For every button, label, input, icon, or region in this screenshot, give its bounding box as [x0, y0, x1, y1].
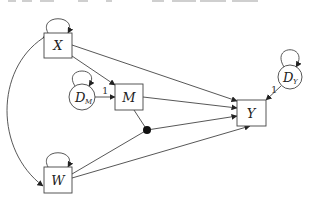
edge-x-m: [72, 56, 115, 85]
path-diagram: X M W Y D M D Y 1 1: [0, 0, 313, 205]
svg-text:M: M: [121, 90, 136, 105]
node-w: W: [44, 167, 72, 193]
edge-label-dm-m: 1: [102, 85, 108, 96]
self-loop-dy: [281, 50, 299, 67]
self-loop-w: [46, 153, 69, 167]
node-m: M: [115, 84, 143, 110]
svg-text:Y: Y: [247, 106, 257, 121]
interaction-point: [143, 126, 151, 134]
node-disturbance-y: D Y: [278, 65, 302, 89]
edge-w-y: [72, 126, 250, 178]
edge-m-y: [143, 97, 237, 108]
self-loop-x: [46, 19, 69, 33]
node-y: Y: [237, 100, 266, 126]
svg-text:X: X: [52, 38, 63, 53]
clipped-header-text: [8, 0, 258, 2]
edge-interaction-y: [147, 116, 237, 130]
svg-text:M: M: [84, 98, 93, 106]
svg-text:W: W: [51, 173, 66, 188]
edge-label-dy-y: 1: [271, 84, 277, 95]
covariance-x-w: [7, 38, 43, 186]
node-disturbance-m: D M: [69, 84, 95, 110]
node-x: X: [44, 33, 72, 58]
